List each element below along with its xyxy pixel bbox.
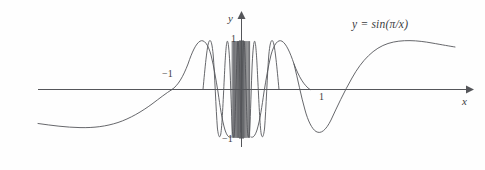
- curve-left-tail: [38, 90, 172, 128]
- x-tick-label-positive-one: 1: [319, 92, 324, 102]
- x-axis-arrowhead: [466, 86, 474, 94]
- y-axis-arrowhead: [238, 11, 246, 19]
- plot-svg: [0, 0, 485, 170]
- y-tick-label-positive-one: 1: [231, 34, 236, 44]
- equation-label: y = sin(π/x): [352, 19, 408, 31]
- y-tick-label-negative-one: −1: [222, 134, 233, 144]
- figure-canvas: y x 1 −1 −1 1 y = sin(π/x): [0, 0, 485, 170]
- curve-right-trough-and-tail: [294, 41, 455, 133]
- dense-oscillation-band-left: [232, 42, 241, 138]
- x-axis-label: x: [462, 96, 467, 107]
- y-axis-label: y: [228, 13, 233, 24]
- x-tick-label-negative-one: −1: [162, 69, 173, 79]
